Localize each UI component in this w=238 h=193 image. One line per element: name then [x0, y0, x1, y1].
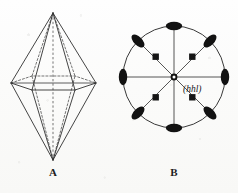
hidden-edge-bottom-to-back-right [53, 76, 75, 160]
bipyramid-drawing [0, 0, 120, 193]
hidden-edge-bottom-to-back-left [32, 76, 53, 160]
panel-a-hexagonal-bipyramid [0, 0, 120, 193]
edge-top-to-right [53, 13, 96, 83]
equator-front-edges [11, 83, 96, 90]
center-pole [171, 74, 178, 81]
perimeter-pole-e [221, 69, 229, 85]
hidden-edge-top-to-back-right [53, 13, 75, 76]
center-pole-inner [173, 76, 176, 79]
bipyramid-solid-edges [11, 13, 96, 160]
interior-pole-ne [189, 54, 195, 60]
figure-root: (hhl) A B [0, 0, 238, 193]
hidden-edge-top-to-back-left [32, 13, 53, 76]
interior-pole-se [189, 94, 195, 100]
panel-b-stereographic-projection [118, 0, 238, 193]
perimeter-pole-w [119, 69, 127, 85]
perimeter-pole-s [166, 124, 182, 132]
stereogram-drawing [118, 0, 238, 193]
interior-pole-nw [153, 54, 159, 60]
panel-label-b: B [154, 166, 194, 178]
perimeter-pole-n [166, 22, 182, 30]
bipyramid-hidden-edges [11, 13, 96, 160]
edge-top-to-front-left [32, 13, 53, 90]
miller-index-label: (hhl) [183, 84, 201, 94]
edge-top-to-left [11, 13, 53, 83]
panel-label-a: A [33, 166, 73, 178]
edge-top-to-front-right [53, 13, 75, 90]
edge-bottom-to-left [11, 83, 53, 160]
equator-back-edges [11, 76, 96, 83]
edge-bottom-to-right [53, 83, 96, 160]
interior-pole-sw [153, 94, 159, 100]
edge-bottom-to-front-left [32, 90, 53, 160]
edge-bottom-to-front-right [53, 90, 75, 160]
